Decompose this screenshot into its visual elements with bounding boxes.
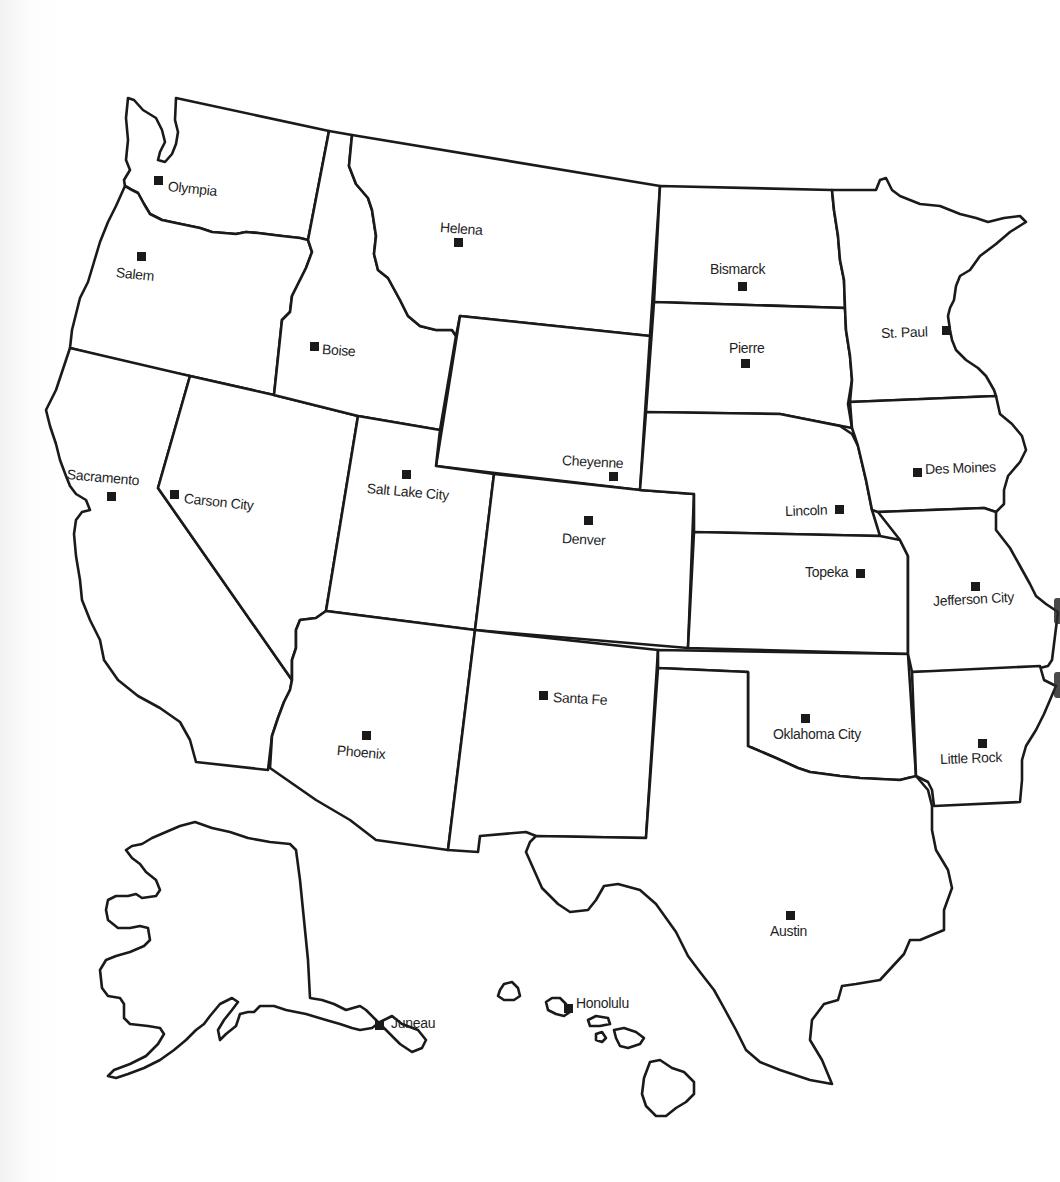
capital-marker-icon <box>564 1004 573 1013</box>
capital-marker-icon <box>137 252 146 261</box>
capital-label: Little Rock <box>940 749 1003 767</box>
capital-label: Honolulu <box>576 995 629 1011</box>
capital-marker-icon <box>609 472 618 481</box>
capital-label: Bismarck <box>710 261 765 277</box>
capital-marker-icon <box>741 359 750 368</box>
capital-marker-icon <box>786 911 795 920</box>
capital-label: Topeka <box>805 564 848 580</box>
capital-label: Denver <box>562 530 606 548</box>
capital-marker-icon <box>584 516 593 525</box>
capital-label: Helena <box>439 219 483 238</box>
capital-marker-icon <box>856 569 865 578</box>
capital-marker-icon <box>942 326 951 335</box>
capital-marker-icon <box>170 490 179 499</box>
capital-marker-icon <box>107 492 116 501</box>
scan-edge-mark <box>1054 672 1060 698</box>
capital-marker-icon <box>454 238 463 247</box>
capital-label: Cheyenne <box>562 452 624 471</box>
capital-label: St. Paul <box>881 323 928 341</box>
state-alaska <box>100 822 426 1078</box>
state-new-mexico <box>448 630 658 852</box>
capital-marker-icon <box>913 468 922 477</box>
capital-marker-icon <box>978 739 987 748</box>
capital-marker-icon <box>738 282 747 291</box>
island-maui <box>614 1028 644 1048</box>
capital-label: Santa Fe <box>553 689 608 708</box>
capital-marker-icon <box>835 505 844 514</box>
capital-marker-icon <box>375 1021 384 1030</box>
island-lanai <box>596 1032 606 1042</box>
capital-marker-icon <box>801 714 810 723</box>
capital-label: Boise <box>321 341 356 359</box>
capital-label: Pierre <box>729 340 765 356</box>
capital-label: Austin <box>770 923 807 939</box>
state-arkansas <box>912 666 1056 806</box>
state-colorado <box>475 474 694 648</box>
island-molokai <box>588 1016 610 1026</box>
island-kauai <box>498 982 520 1000</box>
island-hawaii <box>642 1060 694 1116</box>
capital-marker-icon <box>310 342 319 351</box>
state-minnesota <box>832 178 1026 402</box>
state-north-dakota <box>654 186 845 308</box>
state-arizona <box>270 611 475 850</box>
capital-label: Juneau <box>391 1015 435 1031</box>
capital-marker-icon <box>362 731 371 740</box>
capital-label: Des Moines <box>925 459 996 477</box>
capital-marker-icon <box>154 176 163 185</box>
capital-label: Oklahoma City <box>773 726 861 742</box>
capital-marker-icon <box>402 470 411 479</box>
state-iowa <box>850 396 1026 512</box>
capital-marker-icon <box>539 691 548 700</box>
capital-label: Lincoln <box>785 502 828 519</box>
state-kansas <box>688 532 908 654</box>
map-page: Olympia Salem Boise Helena Bismarck Pier… <box>0 0 1060 1182</box>
scan-edge-mark <box>1054 598 1060 624</box>
